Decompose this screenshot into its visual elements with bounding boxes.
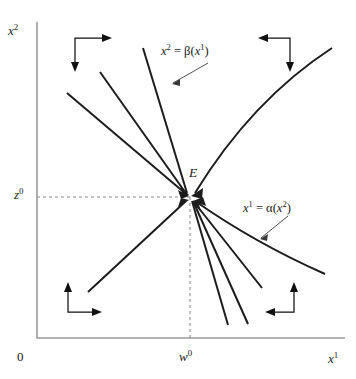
- pointer-beta-label: [173, 63, 208, 83]
- arrowhead-down: [286, 62, 294, 72]
- arrowhead-right: [102, 34, 112, 42]
- quadrant-arrow-bottom-left-corner: [68, 290, 95, 312]
- origin-label: 0: [17, 350, 24, 363]
- quadrant-arrow-top-right: [258, 34, 294, 72]
- trajectory-lower-right-steep: [193, 201, 248, 324]
- quadrant-arrow-top-left: [71, 34, 112, 72]
- x-tick-label-w0: w0: [179, 350, 192, 363]
- trajectory-upper-right: [195, 48, 332, 193]
- y-tick-label-z0: z0: [14, 188, 23, 201]
- quadrant-arrow-bottom-right: [265, 282, 298, 316]
- quadrant-arrow-top-right-corner: [265, 38, 290, 63]
- beta-curve-label: x2 = β(x1): [161, 45, 209, 58]
- figure-page: x2 x1 0 w0 z0 E x2 = β(x1) x1 = α(x2): [0, 0, 356, 379]
- equilibrium-arrowheads: [178, 185, 206, 212]
- equilibrium-label: E: [189, 166, 197, 180]
- arrowhead-right: [92, 308, 102, 316]
- y-axis-label: x2: [8, 24, 18, 37]
- trajectory-lower-left: [88, 201, 186, 292]
- x-axis-label: x1: [328, 352, 338, 365]
- arrowhead-up: [290, 282, 298, 292]
- quadrant-arrow-bottom-left: [64, 282, 102, 316]
- arrowhead-down: [71, 62, 79, 72]
- arrowhead-up: [64, 282, 72, 292]
- pointer-alpha-label: [261, 216, 288, 238]
- alpha-curve-label: x1 = α(x2): [243, 202, 291, 215]
- arrowhead-from-lower-left: [178, 198, 189, 207]
- axis-frame: [37, 22, 345, 338]
- arrowhead-left: [265, 308, 275, 316]
- quadrant-arrow-top-left-corner: [75, 38, 105, 63]
- arrowhead-left: [258, 34, 268, 42]
- quadrant-arrow-bottom-right-corner: [272, 290, 294, 312]
- beta-curve-upper: [143, 48, 187, 193]
